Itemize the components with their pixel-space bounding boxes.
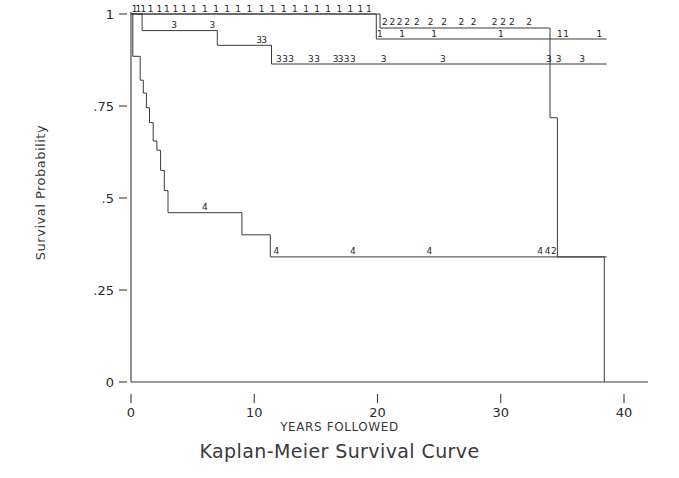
- chart-title: Kaplan-Meier Survival Curve: [0, 440, 679, 462]
- group-symbol-3: 3: [171, 20, 177, 30]
- group-symbol-2: 2: [458, 17, 464, 27]
- group-symbol-1: 1: [348, 4, 354, 14]
- group-symbol-1: 1: [366, 4, 372, 14]
- group-symbol-2: 2: [382, 17, 388, 27]
- group-symbol-3: 3: [282, 54, 288, 64]
- x-axis-title: YEARS FOLLOWED: [0, 420, 679, 434]
- kaplan-meier-figure: 1111111111111111111111111111111122222222…: [0, 0, 679, 478]
- group-symbol-1: 1: [224, 4, 230, 14]
- group-symbol-2: 2: [389, 17, 395, 27]
- group-symbol-1: 1: [181, 4, 187, 14]
- group-symbol-3: 3: [338, 54, 344, 64]
- group-symbol-2: 2: [414, 17, 420, 27]
- survival-curve-4: [131, 14, 604, 382]
- group-symbol-4: 4: [537, 246, 543, 256]
- group-symbol-1: 1: [498, 29, 504, 39]
- group-symbol-3: 3: [308, 54, 314, 64]
- group-symbol-3: 3: [314, 54, 320, 64]
- axes: [119, 12, 648, 403]
- group-symbol-2: 2: [526, 17, 532, 27]
- survival-curve-2: [131, 14, 607, 257]
- group-symbol-4: 4: [426, 246, 432, 256]
- group-symbol-3: 3: [546, 54, 552, 64]
- group-symbol-1: 1: [431, 29, 437, 39]
- y-tick-label: .25: [93, 283, 114, 298]
- group-symbol-1: 1: [563, 29, 569, 39]
- group-symbol-1: 1: [202, 4, 208, 14]
- group-symbol-1: 1: [270, 4, 276, 14]
- group-symbol-1: 1: [164, 4, 170, 14]
- x-tick-label: 40: [616, 405, 633, 420]
- group-symbol-1: 1: [235, 4, 241, 14]
- y-tick-label: 1: [106, 7, 114, 22]
- group-symbol-1: 1: [399, 29, 405, 39]
- tick-labels: 0.25.5.751010203040: [93, 7, 632, 420]
- group-symbol-4: 4: [202, 202, 208, 212]
- x-tick-label: 20: [369, 405, 386, 420]
- group-symbol-1: 1: [303, 4, 309, 14]
- survival-curve-1: [131, 14, 607, 39]
- group-symbol-1: 1: [292, 4, 298, 14]
- group-symbol-4: 4: [545, 246, 551, 256]
- group-symbol-3: 3: [579, 54, 585, 64]
- censor-marks: 1111111111111111111111111111111122222222…: [132, 4, 602, 257]
- y-tick-label: 0: [106, 375, 114, 390]
- y-tick-label: .5: [102, 191, 114, 206]
- group-symbol-1: 1: [191, 4, 197, 14]
- group-symbol-3: 3: [440, 54, 446, 64]
- group-symbol-2: 2: [509, 17, 515, 27]
- group-symbol-1: 1: [325, 4, 331, 14]
- group-symbol-3: 3: [381, 54, 387, 64]
- group-symbol-2: 2: [492, 17, 498, 27]
- group-symbol-2: 2: [500, 17, 506, 27]
- group-symbol-1: 1: [377, 29, 383, 39]
- group-symbol-4: 4: [274, 246, 280, 256]
- group-symbol-3: 3: [288, 54, 294, 64]
- group-symbol-3: 3: [556, 54, 562, 64]
- group-symbol-1: 1: [259, 4, 265, 14]
- group-symbol-2: 2: [551, 246, 557, 256]
- y-axis-title: Survival Probability: [33, 73, 48, 313]
- group-symbol-3: 3: [276, 54, 282, 64]
- group-symbol-1: 1: [336, 4, 342, 14]
- x-tick-label: 10: [246, 405, 263, 420]
- group-symbol-2: 2: [441, 17, 447, 27]
- group-symbol-1: 1: [140, 4, 146, 14]
- group-symbol-1: 1: [314, 4, 320, 14]
- group-symbol-1: 1: [281, 4, 287, 14]
- group-symbol-1: 1: [596, 29, 602, 39]
- group-symbol-1: 1: [246, 4, 252, 14]
- group-symbol-3: 3: [209, 20, 215, 30]
- group-symbol-1: 1: [357, 4, 363, 14]
- survival-curves: [131, 14, 607, 382]
- group-symbol-2: 2: [404, 17, 410, 27]
- group-symbol-2: 2: [428, 17, 434, 27]
- x-tick-label: 0: [127, 405, 135, 420]
- group-symbol-3: 3: [261, 35, 267, 45]
- group-symbol-2: 2: [471, 17, 477, 27]
- x-tick-label: 30: [492, 405, 509, 420]
- plot-area: 1111111111111111111111111111111122222222…: [0, 0, 679, 478]
- group-symbol-3: 3: [350, 54, 356, 64]
- group-symbol-1: 1: [148, 4, 154, 14]
- group-symbol-1: 1: [156, 4, 162, 14]
- group-symbol-3: 3: [344, 54, 350, 64]
- y-tick-label: .75: [93, 99, 114, 114]
- group-symbol-1: 1: [557, 29, 563, 39]
- group-symbol-4: 4: [350, 246, 356, 256]
- group-symbol-1: 1: [213, 4, 219, 14]
- group-symbol-2: 2: [397, 17, 403, 27]
- group-symbol-1: 1: [173, 4, 179, 14]
